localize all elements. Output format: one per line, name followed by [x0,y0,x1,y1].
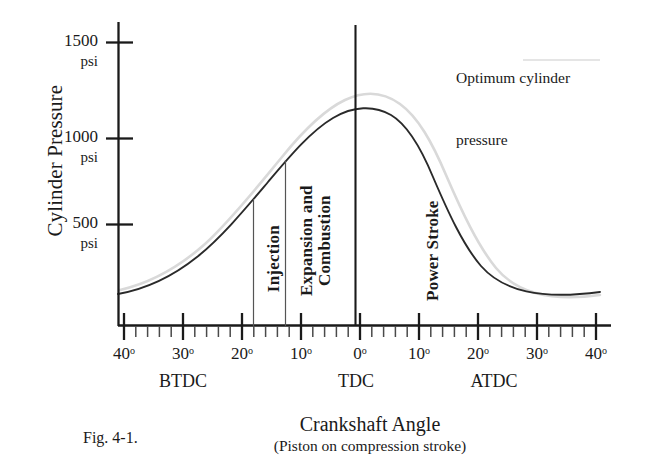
figure-container: Cylinder Pressure 1500 psi 1000 psi 500 … [0,0,651,467]
x-tick-label-atdc-10: 10o [397,345,441,362]
x-axis-subtitle: (Piston on compression stroke) [240,438,500,454]
x-tick-label-btdc-20: 20o [220,345,264,362]
annotation-optimum-line1: Optimum cylinder [456,68,570,89]
band-label-power-stroke: Power Stroke [424,181,441,321]
figure-number-label: Fig. 4-1. [83,430,138,446]
x-tick-label-btdc-30: 30o [161,345,205,362]
band-label-injection: Injection [265,199,282,319]
x-tick-label-atdc-40: 40o [574,345,618,362]
x-tick-label-atdc-30: 30o [515,345,559,362]
y-tick-label-1500: 1500 [36,32,98,49]
y-tick-unit-500: psi [36,236,98,251]
x-zone-label-btdc: BTDC [138,372,228,390]
x-tick-label-btdc-10: 10o [279,345,323,362]
y-tick-unit-1000: psi [36,150,98,165]
x-tick-label-atdc-20: 20o [456,345,500,362]
x-axis-minor-ticks [124,326,584,337]
annotation-optimum-pressure: Optimum cylinder pressure [456,27,570,192]
y-tick-label-500: 500 [36,214,98,231]
y-tick-unit-1500: psi [36,54,98,69]
band-label-combustion: Combustion [316,161,333,321]
band-label-expansion: Expansion and [298,161,315,321]
x-zone-label-tdc: TDC [311,372,401,390]
x-tick-label-tdc-0: 0o [338,345,382,362]
x-axis-title: Crankshaft Angle [240,414,500,434]
annotation-optimum-line2: pressure [456,130,570,151]
x-zone-label-atdc: ATDC [449,372,539,390]
y-tick-label-1000: 1000 [36,128,98,145]
x-tick-label-btdc-40: 40o [102,345,146,362]
